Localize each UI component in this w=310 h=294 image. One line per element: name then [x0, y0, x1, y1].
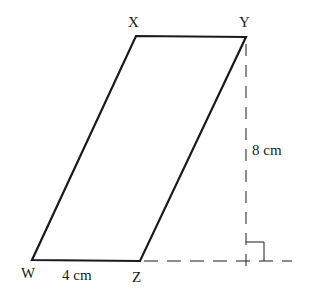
parallelogram-wxyz: [32, 36, 246, 261]
vertex-label-z: Z: [132, 269, 141, 285]
parallelogram-diagram: X Y W Z 4 cm 8 cm: [0, 0, 310, 294]
vertex-label-w: W: [21, 265, 36, 281]
height-measurement-label: 8 cm: [252, 142, 282, 158]
diagram-canvas: X Y W Z 4 cm 8 cm: [0, 0, 310, 294]
vertex-label-y: Y: [239, 14, 250, 30]
vertex-label-x: X: [128, 14, 139, 30]
base-measurement-label: 4 cm: [62, 267, 92, 283]
right-angle-marker: [246, 242, 264, 261]
